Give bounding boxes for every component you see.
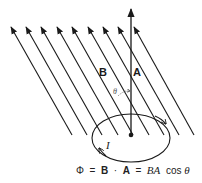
field-line-arrow-icon bbox=[11, 27, 72, 135]
loop-center-dot bbox=[129, 133, 134, 138]
label-current-I: I bbox=[106, 139, 110, 151]
eq-equals-1: = bbox=[90, 165, 96, 176]
eq-cos: cos bbox=[166, 165, 182, 176]
eq-B: B bbox=[101, 165, 108, 176]
field-line-arrow-icon bbox=[72, 27, 133, 135]
label-angle-theta: θ bbox=[113, 87, 117, 96]
eq-dot: · bbox=[114, 165, 117, 176]
eq-BA: BA bbox=[147, 164, 160, 176]
eq-equals-2: = bbox=[135, 165, 141, 176]
eq-A: A bbox=[123, 165, 130, 176]
label-field-B: B bbox=[99, 66, 107, 78]
label-area-A: A bbox=[133, 66, 141, 78]
field-lines bbox=[11, 27, 194, 135]
field-line-arrow-icon bbox=[26, 27, 87, 135]
flux-equation: Φ = B · A = BA cos θ bbox=[76, 164, 190, 176]
eq-theta: θ bbox=[184, 164, 189, 176]
eq-phi: Φ bbox=[76, 165, 84, 176]
field-line-arrow-icon bbox=[41, 27, 102, 135]
field-line-arrow-icon bbox=[88, 27, 149, 135]
field-line-arrow-icon bbox=[118, 27, 179, 135]
field-line-arrow-icon bbox=[134, 27, 194, 135]
flux-diagram bbox=[0, 0, 202, 183]
